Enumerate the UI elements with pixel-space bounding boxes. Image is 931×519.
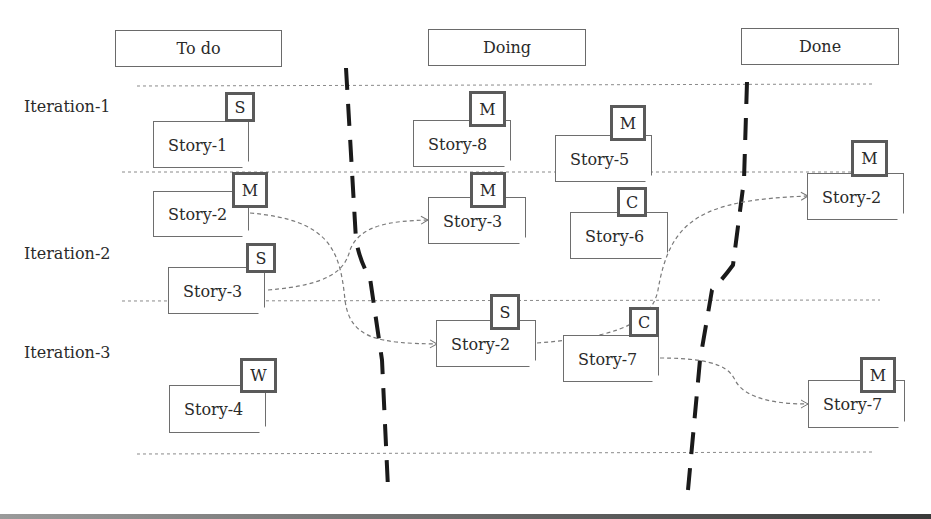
iteration-label-2: Iteration-2 <box>24 244 110 263</box>
story-label: Story-1 <box>168 135 227 154</box>
story-card[interactable]: Story-5 <box>555 135 652 182</box>
story-label: Story-5 <box>570 149 629 168</box>
story-label: Story-2 <box>822 187 881 206</box>
move-arrows <box>250 196 808 404</box>
size-tag: S <box>246 243 276 273</box>
story-card[interactable]: Story-1 <box>153 121 249 168</box>
story-label: Story-3 <box>443 211 502 230</box>
connector-layer <box>0 0 931 519</box>
iteration-label-1: Iteration-1 <box>24 97 110 116</box>
story-label: Story-6 <box>585 226 644 245</box>
size-tag: M <box>610 105 646 141</box>
story-label: Story-2 <box>168 205 227 224</box>
column-header-done: Done <box>741 28 899 65</box>
size-tag: S <box>225 92 255 122</box>
story-card[interactable]: Story-8 <box>413 120 511 167</box>
story-label: Story-8 <box>428 134 487 153</box>
size-tag: S <box>490 294 520 330</box>
guide-line-bottom <box>137 452 875 454</box>
size-tag: C <box>617 187 647 217</box>
story-label: Story-7 <box>578 349 637 368</box>
arrow-todo-story-3-to-doing-story-3 <box>268 220 428 290</box>
size-tag: M <box>469 91 506 127</box>
arrow-todo-story-2-to-doing-story-2 <box>250 213 437 344</box>
story-card[interactable]: Story-2 <box>807 173 904 220</box>
story-card[interactable]: Story-2 <box>436 320 536 367</box>
size-tag: M <box>470 172 506 208</box>
kanban-diagram: To do Doing Done Iteration-1 Iteration-2… <box>0 0 931 519</box>
story-label: Story-4 <box>184 400 243 419</box>
divider-todo-doing <box>346 68 388 488</box>
guide-line-top <box>137 84 875 86</box>
story-card[interactable]: Story-3 <box>168 267 265 314</box>
iteration-label-3: Iteration-3 <box>24 343 110 362</box>
page-bottom-border <box>0 514 931 519</box>
column-header-doing: Doing <box>428 29 586 66</box>
arrow-doing-story-7-to-done-story-7 <box>660 358 808 404</box>
story-label: Story-7 <box>823 395 882 414</box>
size-tag: W <box>240 358 277 393</box>
size-tag: M <box>851 140 888 177</box>
story-label: Story-3 <box>183 281 242 300</box>
size-tag: C <box>629 307 659 337</box>
column-dividers <box>346 68 747 490</box>
story-card[interactable]: Story-6 <box>570 212 668 259</box>
story-label: Story-2 <box>451 334 510 353</box>
size-tag: M <box>860 357 896 393</box>
story-card[interactable]: Story-7 <box>563 335 659 382</box>
column-header-todo: To do <box>115 30 282 67</box>
size-tag: M <box>232 172 268 208</box>
divider-doing-done <box>688 82 747 490</box>
